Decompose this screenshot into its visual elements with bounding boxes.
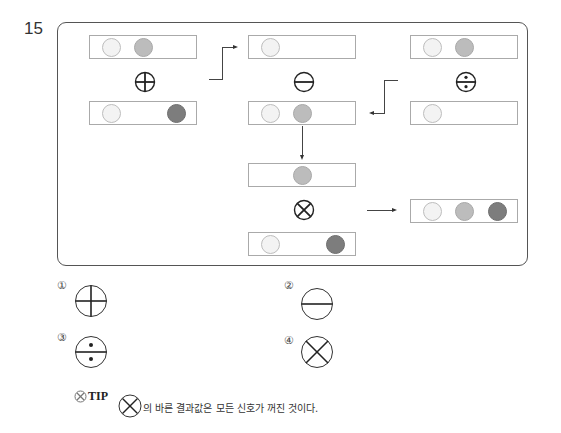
lamp-off: [423, 202, 442, 221]
arrow-line: [384, 80, 398, 81]
arrow-line: [367, 210, 393, 211]
arrow-head-icon: [392, 208, 397, 212]
lamp-off: [423, 104, 442, 123]
lamp-mid: [293, 104, 312, 123]
tip-badge-icon: [74, 390, 87, 403]
arrow-line: [384, 80, 385, 114]
lamp-dark: [326, 235, 345, 254]
arrow-line: [209, 79, 223, 80]
tip-text: 의 바른 결과값은 모든 신호가 꺼진 것이다.: [143, 400, 318, 415]
lamp-off: [423, 38, 442, 57]
signal-box-plus-bottom: [89, 101, 197, 125]
lamp-off: [261, 38, 280, 57]
times-circle-icon: [293, 199, 315, 221]
signal-box-times-top: [248, 163, 356, 187]
divide-circle-icon: [455, 71, 477, 93]
choice-4-times-circle-icon[interactable]: [300, 335, 334, 369]
arrow-line: [374, 113, 385, 114]
lamp-dark: [167, 104, 186, 123]
lamp-off: [261, 235, 280, 254]
tip-times-circle-icon: [118, 394, 142, 418]
minus-circle-icon: [293, 71, 315, 93]
arrow-line: [302, 126, 303, 156]
lamp-mid: [455, 202, 474, 221]
arrow-line: [222, 47, 223, 80]
choice-1-number: ①: [57, 279, 67, 292]
choice-2-number: ②: [284, 279, 294, 292]
signal-box-minus-top: [248, 35, 356, 59]
lamp-off: [102, 104, 121, 123]
lamp-off: [261, 104, 280, 123]
choice-2-minus-circle-icon[interactable]: [300, 287, 334, 321]
lamp-mid: [455, 38, 474, 57]
tip-label: TIP: [88, 389, 108, 404]
signal-box-result: [410, 199, 518, 223]
plus-circle-icon: [134, 71, 156, 93]
lamp-mid: [134, 38, 153, 57]
lamp-off: [102, 38, 121, 57]
question-number: 15: [24, 19, 43, 39]
signal-box-divide-bottom: [410, 101, 518, 125]
lamp-dark: [488, 202, 507, 221]
choice-3-number: ③: [57, 331, 67, 344]
choice-1-plus-circle-icon[interactable]: [74, 284, 108, 318]
signal-box-minus-bottom: [248, 101, 356, 125]
signal-box-divide-top: [410, 35, 518, 59]
arrow-head-icon: [233, 45, 238, 49]
choice-3-divide-circle-icon[interactable]: [74, 335, 108, 369]
signal-box-times-bottom: [248, 232, 356, 256]
choice-4-number: ④: [284, 334, 294, 347]
arrow-head-icon: [300, 155, 304, 160]
lamp-mid: [293, 166, 312, 185]
arrow-head-icon: [369, 111, 374, 115]
signal-box-plus-top: [89, 35, 197, 59]
